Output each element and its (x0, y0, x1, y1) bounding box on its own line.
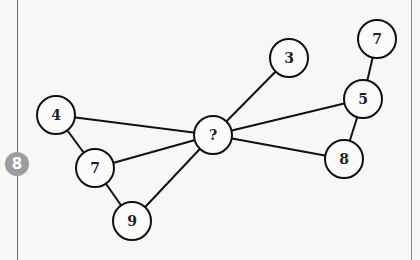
node-label: 7 (372, 31, 382, 47)
node-label: 9 (127, 213, 137, 229)
node-label: ? (209, 127, 217, 143)
node-center: ? (194, 116, 232, 154)
node-label: 3 (284, 50, 294, 66)
node-n3: 3 (270, 39, 308, 77)
node-label: 4 (51, 107, 61, 123)
node-n7top: 7 (358, 20, 396, 58)
node-label: 5 (358, 91, 368, 107)
question-number-badge: 8 (5, 152, 29, 176)
edge-center-n4 (56, 115, 213, 135)
node-label: 8 (339, 151, 349, 167)
node-n5: 5 (344, 80, 382, 118)
node-label: 7 (90, 160, 100, 176)
node-n8: 8 (325, 140, 363, 178)
graph-nodes: ?3758479 (37, 20, 396, 240)
node-n4: 4 (37, 96, 75, 134)
node-n9: 9 (113, 202, 151, 240)
edge-center-n5 (213, 99, 363, 135)
number-graph-diagram: ?3758479 (0, 0, 420, 260)
node-n7left: 7 (76, 149, 114, 187)
puzzle-frame: ?3758479 8 (0, 0, 420, 260)
